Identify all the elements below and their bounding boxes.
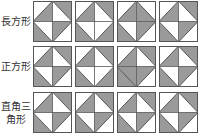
row-label: 正方形 xyxy=(0,60,32,73)
pattern-tile xyxy=(75,46,114,87)
pattern-tile xyxy=(117,46,156,87)
pattern-tile xyxy=(33,92,72,133)
row-label-line: 直角三 xyxy=(0,100,32,113)
tile-row-3: 直角三角形 xyxy=(0,92,202,134)
tile-row-1: 長方形 xyxy=(0,1,202,43)
row-label-line: 正方形 xyxy=(0,60,32,73)
row-label: 直角三角形 xyxy=(0,100,32,126)
pattern-tile xyxy=(159,46,198,87)
tile-row-2: 正方形 xyxy=(0,46,202,88)
pattern-tile xyxy=(117,92,156,133)
pattern-tile xyxy=(159,1,198,42)
pattern-tile xyxy=(75,92,114,133)
pattern-tile xyxy=(33,1,72,42)
pattern-tile xyxy=(159,92,198,133)
row-label-line: 角形 xyxy=(0,113,32,126)
pattern-tile xyxy=(75,1,114,42)
row-label-line: 長方形 xyxy=(0,15,32,28)
pattern-tile xyxy=(33,46,72,87)
row-label: 長方形 xyxy=(0,15,32,28)
pattern-tile xyxy=(117,1,156,42)
